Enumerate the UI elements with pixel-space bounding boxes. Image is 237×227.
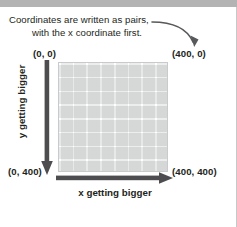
right-border-rule bbox=[236, 7, 237, 227]
coordinate-label-bottom-right: (400, 400) bbox=[172, 166, 217, 177]
coordinate-label-top-right: (400, 0) bbox=[172, 48, 206, 59]
y-axis-label: y getting bigger bbox=[16, 56, 27, 148]
x-axis-label: x getting bigger bbox=[52, 187, 178, 198]
arrow-right-icon bbox=[56, 171, 174, 185]
coordinate-grid-area bbox=[58, 62, 168, 172]
top-gray-band bbox=[0, 0, 237, 7]
arrow-down-icon bbox=[40, 60, 54, 176]
coordinate-label-bottom-left: (0, 400) bbox=[8, 166, 42, 177]
coordinate-system-diagram: Coordinates are written as pairs, with t… bbox=[0, 0, 237, 227]
coordinate-label-top-left: (0, 0) bbox=[33, 48, 56, 59]
